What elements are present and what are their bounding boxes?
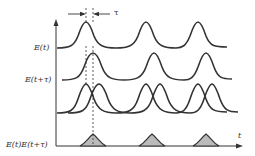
curve-e-t-tau [62, 53, 232, 80]
tau-label: τ [114, 8, 118, 17]
x-axis-label: t [238, 131, 241, 140]
x-axis-arrow-icon [236, 144, 243, 149]
row-label-product: E(t)E(t+τ) [6, 140, 48, 149]
y-axis-arrow-icon [54, 19, 59, 26]
product-peak-2 [139, 134, 165, 146]
curve-overlay-e-t [57, 84, 227, 113]
tau-arrowhead-right-icon [93, 12, 99, 16]
row-label-e-t: E(t) [34, 43, 49, 52]
tau-arrowhead-left-icon [80, 12, 86, 16]
curve-e-t [57, 22, 227, 48]
row-label-e-t-tau: E(t+τ) [25, 75, 51, 84]
product-peak-3 [193, 134, 219, 146]
